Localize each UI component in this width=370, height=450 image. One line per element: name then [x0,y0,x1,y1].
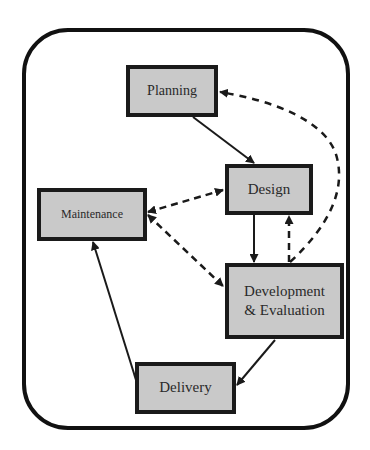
edge-maintenance-design [148,190,223,212]
edge-development-to-delivery [237,340,275,385]
node-development-label-line2: & Evaluation [244,301,324,321]
node-design: Design [225,164,313,215]
node-delivery: Delivery [135,362,236,414]
node-design-label: Design [248,180,291,200]
node-development-label-line1: Development [244,282,325,302]
edge-planning-to-design [193,117,254,163]
edge-maintenance-development [148,215,223,286]
node-development-evaluation: Development & Evaluation [225,263,344,339]
node-maintenance: Maintenance [37,188,147,241]
node-maintenance-label: Maintenance [61,207,123,223]
node-delivery-label: Delivery [159,378,211,398]
edge-delivery-to-maintenance [93,242,136,380]
node-planning: Planning [126,65,218,117]
node-planning-label: Planning [147,82,197,100]
